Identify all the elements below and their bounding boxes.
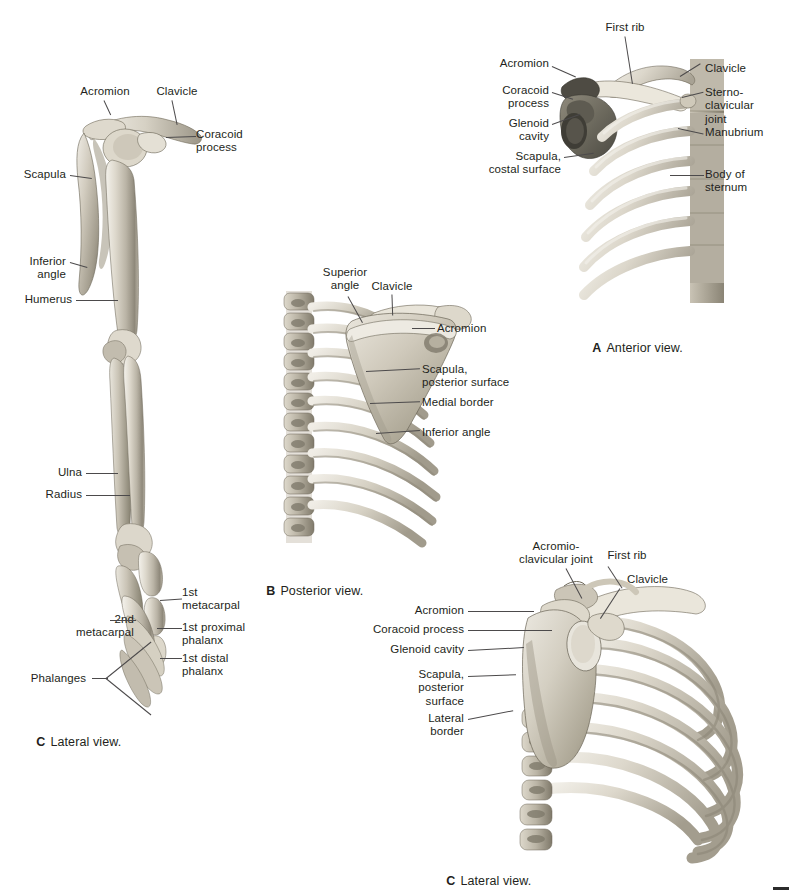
c-right-artwork	[512, 580, 793, 860]
label-c-left-coracoid-process: Coracoid process	[196, 128, 266, 155]
label-c-left-radius: Radius	[32, 488, 82, 501]
label-c-left-scapula: Scapula	[10, 168, 66, 181]
label-c-left-2nd-metacarpal: 2nd metacarpal	[46, 613, 134, 640]
label-c-right-lateral-border: Lateral border	[400, 712, 464, 739]
caption-a-letter: A	[592, 341, 601, 355]
label-c-right-ac-joint: Acromio- clavicular joint	[506, 540, 606, 567]
anatomy-plate: Acromion Clavicle Coracoid process Scapu…	[0, 0, 793, 894]
caption-a-text: Anterior view.	[606, 341, 682, 355]
label-c-right-acromion: Acromion	[400, 604, 464, 617]
label-c-left-phalanges: Phalanges	[22, 672, 86, 685]
label-a-clavicle: Clavicle	[705, 62, 767, 75]
caption-c-right-letter: C	[446, 874, 455, 888]
caption-b-letter: B	[266, 584, 275, 598]
figure-c-right-lateral-view	[512, 580, 793, 860]
label-a-body-of-sternum: Body of sternum	[705, 168, 771, 195]
label-c-left-acromion: Acromion	[65, 85, 145, 98]
label-c-left-clavicle: Clavicle	[146, 85, 208, 98]
label-b-inferior-angle: Inferior angle	[422, 426, 508, 439]
leader-b-acromion	[412, 328, 435, 329]
label-a-sternoclavicular-joint: Sterno- clavicular joint	[705, 86, 777, 126]
leader-c-right-coracoid-process	[468, 630, 552, 631]
label-c-left-humerus: Humerus	[14, 293, 72, 306]
label-b-scapula-posterior-surface: Scapula, posterior surface	[422, 363, 518, 390]
leader-c-left-humerus	[76, 300, 118, 301]
leader-c-left-1st-proximal-phalanx	[157, 628, 182, 629]
label-a-first-rib: First rib	[595, 21, 655, 34]
leader-c-left-2nd-metacarpal	[110, 620, 136, 621]
leader-c-right-lateral-border	[468, 710, 513, 720]
label-a-glenoid-cavity: Glenoid cavity	[489, 117, 549, 144]
label-a-scapula-costal-surface: Scapula, costal surface	[463, 150, 561, 177]
label-c-right-first-rib: First rib	[598, 549, 656, 562]
leader-c-left-ulna	[86, 473, 118, 474]
label-c-right-coracoid-process: Coracoid process	[368, 623, 464, 636]
label-b-acromion: Acromion	[437, 322, 497, 335]
caption-c-left: CLateral view.	[22, 721, 121, 763]
label-c-right-clavicle: Clavicle	[627, 573, 689, 586]
leader-c-left-1st-distal-phalanx	[160, 658, 182, 659]
label-c-left-1st-metacarpal: 1st metacarpal	[182, 586, 256, 613]
label-c-left-ulna: Ulna	[40, 466, 82, 479]
label-b-medial-border: Medial border	[422, 396, 512, 409]
label-c-right-scapula-posterior-surface: Scapula, posterior surface	[400, 668, 464, 708]
caption-c-right: CLateral view.	[432, 860, 531, 894]
caption-c-left-letter: C	[36, 735, 45, 749]
leader-a-body-of-sternum	[670, 175, 704, 176]
label-a-acromion: Acromion	[487, 57, 549, 70]
caption-b: BPosterior view.	[252, 570, 363, 612]
label-c-left-inferior-angle: Inferior angle	[2, 255, 66, 282]
label-a-manubrium: Manubrium	[705, 126, 775, 139]
leader-c-right-acromion	[468, 611, 534, 612]
label-c-left-1st-distal-phalanx: 1st distal phalanx	[182, 652, 258, 679]
label-b-clavicle: Clavicle	[366, 280, 418, 293]
caption-c-right-text: Lateral view.	[460, 874, 531, 888]
leader-c-left-radius	[86, 495, 130, 496]
caption-a: AAnterior view.	[578, 327, 683, 369]
page-corner-mark	[773, 887, 789, 890]
caption-c-left-text: Lateral view.	[50, 735, 121, 749]
caption-b-text: Posterior view.	[280, 584, 363, 598]
leader-c-right-scapula-posterior-surface	[468, 674, 516, 677]
label-c-left-1st-proximal-phalanx: 1st proximal phalanx	[182, 621, 264, 648]
label-c-right-glenoid-cavity: Glenoid cavity	[378, 643, 464, 656]
label-a-coracoid-process: Coracoid process	[489, 84, 549, 111]
